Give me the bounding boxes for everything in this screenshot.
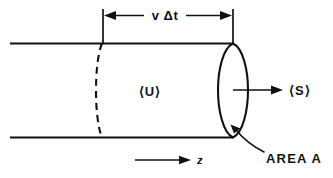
flux-arrow-group: ⟨S⟩ [233,83,311,98]
dimension-v-delta-t: v Δt [103,8,233,44]
z-axis-label: z [196,154,203,166]
flux-label: ⟨S⟩ [289,83,311,98]
energy-density-label-group: ⟨U⟩ [139,84,161,99]
area-callout-group: AREA A [231,125,323,167]
area-leader-line [236,130,264,152]
z-axis-arrowhead [179,156,191,164]
flux-arrowhead [271,86,283,95]
diagram-svg: v Δt ⟨U⟩ ⟨S⟩ z AREA A [0,0,333,178]
dimension-label: v Δt [152,8,179,23]
cylinder-tube [10,44,233,138]
figure-canvas: v Δt ⟨U⟩ ⟨S⟩ z AREA A [0,0,333,178]
area-label: AREA A [266,151,322,166]
back-cap-dashed-arc [96,44,102,138]
dimension-arrowhead-right [220,11,232,20]
energy-density-label: ⟨U⟩ [139,84,161,99]
dimension-arrowhead-left [104,11,116,20]
z-axis-group: z [135,154,203,166]
